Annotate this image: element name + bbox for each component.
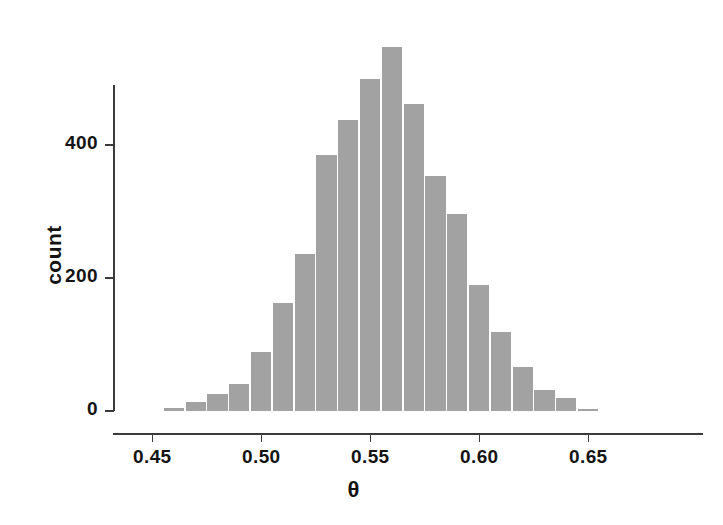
x-axis-tick (261, 433, 263, 442)
histogram-bar (360, 79, 380, 412)
y-axis-tick-label: 400 (38, 132, 98, 154)
histogram-bar (556, 398, 576, 411)
x-axis-tick-label: 0.45 (112, 446, 192, 468)
x-axis-tick-label: 0.65 (548, 446, 628, 468)
histogram-bar (425, 176, 445, 411)
y-axis-line (113, 85, 115, 411)
x-axis-tick (152, 433, 154, 442)
x-axis-title: θ (0, 477, 723, 503)
x-axis-line (113, 433, 703, 435)
y-axis-tick (105, 277, 114, 279)
histogram-bar (382, 47, 402, 411)
x-axis-tick-label: 0.50 (221, 446, 301, 468)
histogram-figure: 0200400 0.450.500.550.600.65 count θ (0, 0, 723, 525)
histogram-bar (164, 408, 184, 411)
x-axis-tick-label: 0.55 (330, 446, 410, 468)
histogram-bar (578, 409, 598, 411)
x-axis-tick-label: 0.60 (439, 446, 519, 468)
histogram-bar (513, 367, 533, 411)
histogram-bar (447, 214, 467, 411)
x-axis-title-label: θ (348, 477, 360, 502)
y-axis-tick (105, 144, 114, 146)
histogram-bar (251, 352, 271, 411)
histogram-bar (469, 285, 489, 411)
histogram-bar (295, 254, 315, 411)
x-axis-tick (588, 433, 590, 442)
histogram-bar (229, 384, 249, 411)
histogram-bar (316, 155, 336, 411)
histogram-bar (491, 332, 511, 411)
x-axis-tick (479, 433, 481, 442)
histogram-bar (404, 104, 424, 411)
histogram-bar (534, 390, 554, 411)
histogram-bar (338, 120, 358, 411)
y-axis-tick-label: 0 (38, 398, 98, 420)
y-axis-title: count (42, 195, 66, 315)
y-axis-tick (105, 410, 114, 412)
plot-area: 0200400 0.450.500.550.600.65 count θ (0, 0, 723, 525)
x-axis-tick (370, 433, 372, 442)
histogram-bar (273, 303, 293, 411)
histogram-bar (186, 402, 206, 411)
histogram-bar (207, 394, 227, 411)
